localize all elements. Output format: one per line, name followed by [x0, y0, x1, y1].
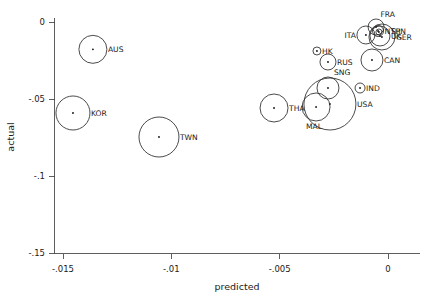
bubble-center-mal: [315, 106, 317, 108]
bubble-center-spn: [378, 31, 380, 33]
y-tick-label: 0: [40, 17, 45, 27]
bubble-label-tha: THA: [288, 104, 305, 113]
x-tick-label-group: -.015-.01-.0050: [52, 264, 391, 274]
bubble-center-ita: [365, 34, 367, 36]
bubble-center-rus: [327, 61, 329, 63]
y-tick-label: -.1: [34, 171, 45, 181]
bubble-scatter-figure: 0-.05-.1-.15 actual -.015-.01-.0050 pred…: [0, 0, 440, 300]
x-tick-label: -.015: [52, 264, 74, 274]
bubble-label-ita: ITA: [344, 31, 356, 40]
plot-canvas: 0-.05-.1-.15 actual -.015-.01-.0050 pred…: [0, 0, 440, 300]
bubble-center-tha: [273, 107, 275, 109]
bubble-label-kor: KOR: [91, 109, 108, 118]
bubble-center-can: [371, 59, 373, 61]
bubble-label-usa: USA: [357, 100, 374, 109]
bubble-center-aus: [92, 48, 94, 50]
x-axis: -.015-.01-.0050 predicted: [52, 254, 420, 293]
x-tick-label: -.005: [269, 264, 291, 274]
y-axis: 0-.05-.1-.15 actual: [5, 17, 55, 258]
bubble-center-sng: [327, 87, 329, 89]
bubble-label-twn: TWN: [179, 133, 198, 142]
bubble-label-can: CAN: [384, 56, 400, 65]
x-axis-title: predicted: [214, 281, 259, 292]
bubble-center-ger: [381, 36, 383, 38]
bubble-center-hk: [316, 50, 318, 52]
bubble-center-twn: [158, 136, 160, 138]
bubble-label-hk: HK: [322, 47, 334, 56]
x-tick-group: [63, 254, 388, 260]
y-tick-label: -.05: [28, 94, 45, 104]
y-tick-label-group: 0-.05-.1-.15: [28, 17, 45, 258]
y-axis-title: actual: [5, 122, 16, 151]
bubble-label-series: AUSKORTWNTHAMALUSASNGRUSHKINDCANITAUKGER…: [91, 10, 413, 142]
bubble-center-kor: [72, 112, 74, 114]
bubble-label-aus: AUS: [108, 45, 124, 54]
bubble-label-fra: FRA: [380, 10, 395, 19]
y-tick-label: -.15: [28, 248, 45, 258]
bubble-center-ind: [359, 87, 361, 89]
bubble-label-spn: SPN: [391, 27, 406, 36]
x-tick-label: -.01: [163, 264, 180, 274]
bubble-label-sng: SNG: [334, 68, 351, 77]
bubble-label-rus: RUS: [337, 58, 353, 67]
bubble-label-ind: IND: [366, 84, 380, 93]
y-tick-group: [49, 22, 55, 253]
x-tick-label: 0: [385, 264, 390, 274]
bubble-label-mal: MAL: [306, 122, 323, 131]
